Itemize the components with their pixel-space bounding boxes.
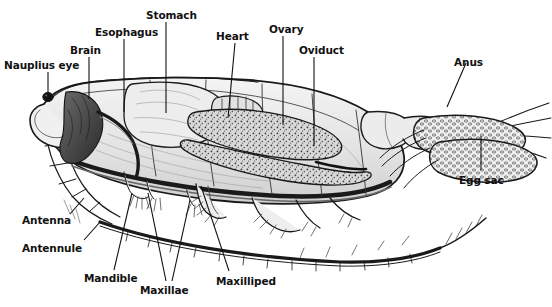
label-brain: Brain: [70, 45, 101, 56]
leader-line-anus: [447, 63, 466, 107]
label-nauplius-eye: Nauplius eye: [4, 60, 79, 71]
label-heart: Heart: [216, 31, 249, 42]
label-maxilliped: Maxilliped: [216, 276, 276, 287]
label-esophagus: Esophagus: [95, 27, 158, 38]
label-ovary: Ovary: [269, 24, 303, 35]
label-antenna: Antenna: [22, 215, 71, 226]
label-egg-sac: Egg sac: [459, 175, 504, 186]
label-oviduct: Oviduct: [299, 45, 344, 56]
copepod-anatomy-figure: Nauplius eyeBrainEsophagusStomachHeartOv…: [0, 0, 552, 307]
label-maxillae: Maxillae: [140, 285, 189, 296]
label-anus: Anus: [454, 57, 483, 68]
label-stomach: Stomach: [146, 10, 197, 21]
label-mandible: Mandible: [84, 273, 138, 284]
leader-line-antennule: [84, 222, 100, 240]
label-antennule: Antennule: [22, 243, 82, 254]
